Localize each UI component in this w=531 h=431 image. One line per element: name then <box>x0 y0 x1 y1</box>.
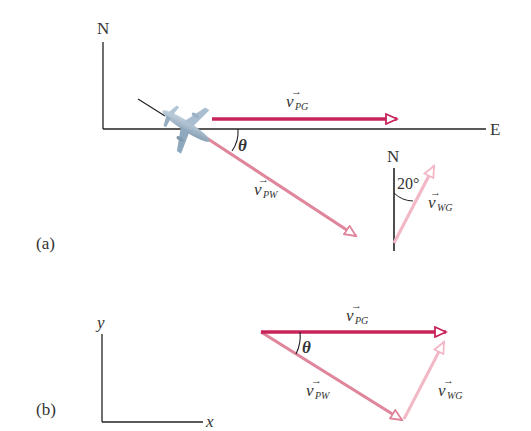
svg-text:WG: WG <box>447 390 463 401</box>
theta-arc-b <box>296 332 300 354</box>
theta-label: θ <box>238 136 247 155</box>
y-axis-label: y <box>95 313 105 332</box>
panel-b-label: (b) <box>36 400 56 419</box>
svg-text:WG: WG <box>437 202 453 213</box>
v-pw-vector-b <box>261 332 402 420</box>
v-pw-label-b: → v PW <box>306 374 331 401</box>
v-pg-label: → v PG <box>286 85 308 112</box>
panel-b: y x (b) θ → v PG → v PW → v WG <box>36 299 463 431</box>
east-label: E <box>490 120 500 139</box>
svg-text:v: v <box>254 180 262 199</box>
svg-text:v: v <box>438 381 446 400</box>
v-wg-label-b: → v WG <box>438 374 463 401</box>
vector-diagram: N E θ → v PG → v <box>0 0 531 431</box>
heading-line <box>138 99 165 116</box>
wind-inset: N 20° → v WG <box>387 147 453 251</box>
svg-text:PW: PW <box>314 390 331 401</box>
angle-20-label: 20° <box>397 175 419 192</box>
x-axis-label: x <box>205 412 214 431</box>
north-label: N <box>97 19 109 38</box>
svg-text:PG: PG <box>354 315 368 326</box>
v-pw-label: → v PW <box>254 173 279 200</box>
inset-north-label: N <box>387 147 399 166</box>
svg-text:v: v <box>286 92 294 111</box>
v-pg-label-b: → v PG <box>346 299 368 326</box>
svg-text:v: v <box>428 193 436 212</box>
svg-text:v: v <box>346 306 354 325</box>
theta-label-b: θ <box>302 338 311 357</box>
angle-20-arc <box>394 193 413 201</box>
svg-text:v: v <box>306 381 314 400</box>
svg-text:PW: PW <box>262 189 279 200</box>
v-pw-vector <box>205 137 356 236</box>
v-wg-label: → v WG <box>428 186 453 213</box>
svg-text:PG: PG <box>294 101 308 112</box>
airplane-icon <box>148 89 223 163</box>
panel-a: N E θ → v PG → v <box>36 19 500 253</box>
panel-a-label: (a) <box>36 234 55 253</box>
